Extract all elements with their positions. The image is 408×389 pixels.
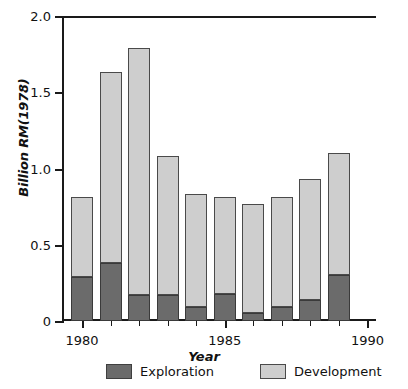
legend-swatch-exploration (106, 364, 132, 379)
bar-segment-exploration-1989 (328, 275, 350, 321)
x-tick-label-1985: 1985 (208, 333, 241, 348)
x-tick-minor-1983 (168, 321, 169, 326)
y-axis-title: Billion RM(1978) (16, 63, 31, 213)
bar-segment-development-1980 (71, 197, 93, 276)
y-tick-mark (55, 321, 64, 323)
bar-segment-exploration-1985 (214, 294, 236, 321)
y-tick-mark (55, 245, 64, 247)
x-tick-label-1990: 1990 (351, 333, 384, 348)
legend-item-exploration: Exploration (106, 364, 214, 379)
bar-segment-exploration-1981 (100, 263, 122, 321)
bar-segment-development-1988 (299, 179, 321, 299)
y-tick-label: 0.5 (30, 237, 51, 252)
bar-1986 (242, 204, 264, 321)
bar-segment-exploration-1984 (185, 307, 207, 321)
x-tick-minor-1981 (111, 321, 112, 326)
bar-segment-development-1981 (100, 72, 122, 263)
bar-segment-development-1986 (242, 204, 264, 314)
x-tick-minor-1986 (253, 321, 254, 326)
x-tick-label-1980: 1980 (65, 333, 98, 348)
bar-segment-exploration-1988 (299, 300, 321, 321)
bar-segment-development-1982 (128, 48, 150, 295)
x-tick-mark-1985 (225, 321, 227, 328)
x-axis-title: Year (0, 349, 408, 364)
y-tick-label: 0 (43, 314, 51, 329)
bar-segment-exploration-1980 (71, 277, 93, 321)
bar-1987 (271, 197, 293, 321)
x-tick-minor-1984 (196, 321, 197, 326)
bar-segment-development-1987 (271, 197, 293, 307)
y-tick-mark (55, 16, 64, 18)
legend-label-development: Development (294, 364, 382, 379)
legend-swatch-development (260, 364, 286, 379)
bar-segment-exploration-1986 (242, 313, 264, 321)
bar-segment-exploration-1987 (271, 307, 293, 321)
y-tick-label: 2.0 (30, 9, 51, 24)
bar-segment-development-1989 (328, 153, 350, 275)
x-tick-mark-1980 (82, 321, 84, 328)
x-tick-minor-1982 (139, 321, 140, 326)
y-tick-mark (55, 92, 64, 94)
y-tick-label: 1.5 (30, 85, 51, 100)
bar-segment-development-1984 (185, 194, 207, 307)
x-tick-minor-1989 (339, 321, 340, 326)
x-tick-mark-1990 (367, 321, 369, 328)
bar-1982 (128, 48, 150, 321)
plot-area: 00.51.01.52.0198019851990 (62, 16, 376, 321)
bar-segment-development-1983 (157, 156, 179, 295)
bar-segment-exploration-1982 (128, 295, 150, 321)
legend-item-development: Development (260, 364, 382, 379)
x-tick-minor-1987 (282, 321, 283, 326)
y-tick-label: 1.0 (30, 161, 51, 176)
bar-segment-exploration-1983 (157, 295, 179, 321)
y-tick-mark (55, 169, 64, 171)
x-tick-minor-1988 (310, 321, 311, 326)
legend-label-exploration: Exploration (140, 364, 214, 379)
bar-1980 (71, 197, 93, 321)
bar-1989 (328, 153, 350, 321)
bar-1985 (214, 197, 236, 321)
chart-legend: Exploration Development (62, 364, 408, 386)
bar-segment-development-1985 (214, 197, 236, 293)
bar-1984 (185, 194, 207, 321)
bar-1983 (157, 156, 179, 321)
chart-figure: Billion RM(1978) 00.51.01.52.01980198519… (0, 0, 408, 389)
bar-1981 (100, 72, 122, 321)
bar-1988 (299, 179, 321, 321)
